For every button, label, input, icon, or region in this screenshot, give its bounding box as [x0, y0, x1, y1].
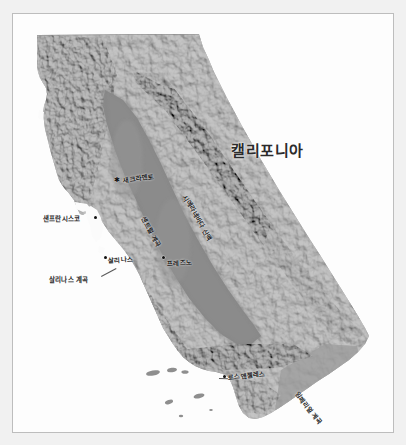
- city-marker-salinas: [104, 256, 107, 259]
- region-label-salinas-valley: 살리나스 계곡: [49, 274, 89, 284]
- city-label-salinas: 살리나스: [108, 253, 133, 265]
- city-marker-fresno: [162, 256, 165, 259]
- map-page: 캘리포니아 ✱ 새크라멘토 샌프란시스코 살리나스 프레즈노 로스앤젤레스 센트…: [0, 0, 406, 445]
- city-marker-san-francisco: [94, 216, 97, 219]
- map-stage: 캘리포니아 ✱ 새크라멘토 샌프란시스코 살리나스 프레즈노 로스앤젤레스 센트…: [13, 14, 393, 432]
- city-label-fresno: 프레즈노: [167, 257, 192, 268]
- city-label-san-francisco: 샌프란시스코: [43, 213, 80, 223]
- map-frame: 캘리포니아 ✱ 새크라멘토 샌프란시스코 살리나스 프레즈노 로스앤젤레스 센트…: [12, 13, 394, 433]
- city-marker-sacramento: ✱: [114, 177, 120, 184]
- map-title: 캘리포니아: [231, 139, 304, 160]
